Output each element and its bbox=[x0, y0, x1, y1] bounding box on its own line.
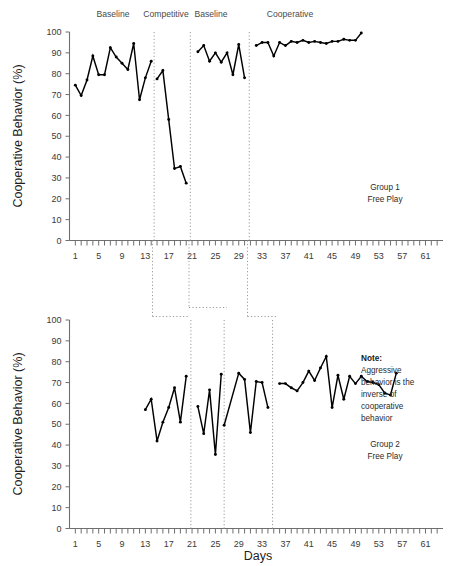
data-point bbox=[348, 39, 351, 42]
data-point bbox=[301, 39, 304, 42]
annotation-note-line1: Aggressive bbox=[361, 366, 402, 375]
data-point bbox=[331, 40, 334, 43]
x-tick-group-bottom bbox=[75, 529, 437, 534]
data-point bbox=[185, 375, 188, 378]
y-tick-label: 90 bbox=[51, 336, 61, 346]
data-point bbox=[220, 373, 223, 376]
x-tick-label: 61 bbox=[420, 539, 430, 549]
x-tick-label: 41 bbox=[304, 539, 314, 549]
data-point bbox=[144, 76, 147, 79]
x-tick-label: 29 bbox=[234, 251, 244, 261]
data-point bbox=[290, 386, 293, 389]
y-tick-label: 100 bbox=[46, 27, 61, 37]
y-tick-label: 20 bbox=[51, 482, 61, 492]
data-point bbox=[208, 388, 211, 391]
y-axis-title-top: Cooperative Behavior (%) bbox=[11, 64, 25, 207]
data-point bbox=[161, 69, 164, 72]
y-tick-label: 100 bbox=[46, 315, 61, 325]
annotation-note-line3: inverse of bbox=[361, 390, 397, 399]
x-tick-label: 49 bbox=[350, 251, 360, 261]
panel-top: 0102030405060708090100 15913172125293337… bbox=[11, 9, 443, 261]
y-tick-label: 60 bbox=[51, 399, 61, 409]
data-point bbox=[255, 380, 258, 383]
x-tick-label: 17 bbox=[164, 539, 174, 549]
annotation-note-line5: behavior bbox=[361, 414, 393, 423]
data-point bbox=[284, 382, 287, 385]
data-point bbox=[91, 55, 94, 58]
annotation-note-heading: Note: bbox=[361, 354, 382, 363]
two-panel-line-chart: 0102030405060708090100 15913172125293337… bbox=[0, 0, 459, 566]
y-tick-group-bottom bbox=[66, 320, 70, 529]
data-point bbox=[86, 79, 89, 82]
x-tick-label: 25 bbox=[210, 539, 220, 549]
data-point bbox=[266, 41, 269, 44]
y-tick-label: 10 bbox=[51, 503, 61, 513]
x-tick-label: 57 bbox=[397, 251, 407, 261]
data-point bbox=[319, 367, 322, 370]
data-point bbox=[261, 41, 264, 44]
x-tick-label-group-top: 15913172125293337414549535761 bbox=[73, 251, 431, 261]
data-point bbox=[156, 439, 159, 442]
data-point bbox=[290, 40, 293, 43]
x-axis-title: Days bbox=[244, 549, 272, 563]
x-tick-group-top bbox=[75, 241, 437, 246]
data-point bbox=[342, 38, 345, 41]
x-tick-label: 53 bbox=[374, 539, 384, 549]
data-point bbox=[319, 41, 322, 44]
data-point bbox=[80, 94, 83, 97]
data-point bbox=[196, 405, 199, 408]
x-tick-label: 33 bbox=[257, 251, 267, 261]
data-point bbox=[243, 378, 246, 381]
phase-divider-group-bottom bbox=[191, 320, 273, 529]
y-tick-label: 40 bbox=[51, 152, 61, 162]
data-point bbox=[144, 408, 147, 411]
data-point bbox=[331, 406, 334, 409]
series-line bbox=[75, 43, 151, 99]
phase-label-baseline-2-top: Baseline bbox=[195, 9, 228, 19]
annotation-note-line2: behavior is the bbox=[361, 378, 415, 387]
y-tick-label: 70 bbox=[51, 378, 61, 388]
data-point bbox=[243, 76, 246, 79]
data-point bbox=[266, 406, 269, 409]
data-point bbox=[325, 355, 328, 358]
y-tick-label: 10 bbox=[51, 215, 61, 225]
data-point bbox=[337, 374, 340, 377]
x-tick-label: 13 bbox=[140, 539, 150, 549]
annotation-group1-line1: Group 1 bbox=[370, 183, 400, 192]
y-tick-label: 40 bbox=[51, 440, 61, 450]
panel-bottom: 0102030405060708090100 15913172125293337… bbox=[11, 315, 443, 563]
x-tick-label: 37 bbox=[280, 251, 290, 261]
data-point bbox=[150, 398, 153, 401]
data-point bbox=[208, 60, 211, 63]
data-point bbox=[173, 167, 176, 170]
x-tick-label: 21 bbox=[187, 539, 197, 549]
data-point bbox=[126, 68, 129, 71]
x-tick-label: 21 bbox=[187, 251, 197, 261]
data-point bbox=[138, 98, 141, 101]
data-point bbox=[109, 46, 112, 49]
data-point bbox=[132, 42, 135, 45]
y-tick-group-top bbox=[66, 32, 70, 241]
data-point bbox=[226, 51, 229, 54]
data-point bbox=[342, 398, 345, 401]
data-point bbox=[196, 50, 199, 53]
figure-root: 0102030405060708090100 15913172125293337… bbox=[0, 0, 459, 566]
data-point bbox=[115, 56, 118, 59]
series-line bbox=[145, 376, 186, 441]
data-point bbox=[202, 432, 205, 435]
y-tick-label: 50 bbox=[51, 419, 61, 429]
data-point bbox=[97, 73, 100, 76]
data-point bbox=[214, 51, 217, 54]
x-tick-label: 5 bbox=[96, 539, 101, 549]
annotation-group1-line2: Free Play bbox=[367, 195, 403, 204]
data-point bbox=[307, 41, 310, 44]
data-point bbox=[202, 44, 205, 47]
data-point bbox=[307, 370, 310, 373]
data-point bbox=[220, 61, 223, 64]
data-point bbox=[167, 406, 170, 409]
series-group-top bbox=[74, 32, 363, 185]
x-tick-label: 41 bbox=[304, 251, 314, 261]
x-tick-label: 57 bbox=[397, 539, 407, 549]
x-tick-label: 45 bbox=[327, 539, 337, 549]
data-point bbox=[296, 389, 299, 392]
